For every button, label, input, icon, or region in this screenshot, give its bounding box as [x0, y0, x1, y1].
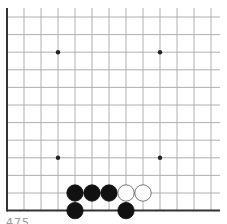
- black-stone[interactable]: [67, 202, 83, 218]
- black-stone[interactable]: [101, 185, 117, 201]
- black-stone[interactable]: [118, 202, 134, 218]
- star-point: [56, 156, 60, 160]
- black-stone[interactable]: [67, 185, 83, 201]
- star-point: [56, 50, 60, 54]
- go-board[interactable]: [0, 0, 227, 224]
- black-stone[interactable]: [84, 185, 100, 201]
- star-point: [158, 50, 162, 54]
- white-stone[interactable]: [118, 185, 134, 201]
- star-point: [158, 156, 162, 160]
- move-caption: 475: [6, 217, 30, 224]
- white-stone[interactable]: [135, 185, 151, 201]
